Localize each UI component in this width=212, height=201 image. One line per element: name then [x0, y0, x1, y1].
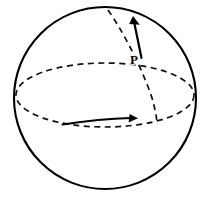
equator-dashed-ellipse	[16, 63, 194, 127]
point-p-label: P	[130, 52, 138, 67]
velocity-vector-arrowhead	[129, 16, 140, 25]
sphere-diagram: P	[0, 0, 212, 201]
rotation-direction-arrowhead	[129, 114, 138, 123]
rotation-direction-shaft	[63, 118, 131, 125]
sphere-diagram-canvas: P	[0, 0, 212, 201]
sphere-outline-circle	[14, 7, 196, 189]
